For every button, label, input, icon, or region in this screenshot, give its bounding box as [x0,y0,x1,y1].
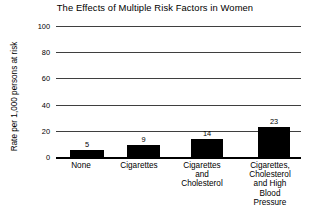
x-axis-label-ccbp-line-2: Cholesterol [233,170,307,179]
y-tick-label-0: 0 [46,154,50,161]
x-axis-label-cigarettes-cholesterol-line-2: and [166,170,238,179]
y-axis-title: Rate per 1,000 persons at risk [10,17,19,177]
bar-cigarettes-cholesterol: 14 [191,139,223,157]
x-axis-label-cigarettes-cholesterol: Cigarettes and Cholesterol [166,161,238,189]
x-axis-label-ccbp-line-5: Pressure [233,198,307,207]
x-axis-label-ccbp-line-3: and High [233,179,307,188]
bar-chart-figure: The Effects of Multiple Risk Factors in … [0,0,310,219]
y-tick-label-80: 80 [42,49,50,56]
gridline-60: 60 [56,78,301,79]
x-axis-label-ccbp-line-1: Cigarettes, [233,161,307,170]
y-tick-label-100: 100 [38,23,50,30]
plot-area: 100 80 60 40 20 0 5 9 14 23 [56,26,301,157]
x-axis-label-ccbp-line-4: Blood [233,189,307,198]
gridline-80: 80 [56,52,301,53]
bar-none: 5 [70,150,104,157]
gridline-40: 40 [56,105,301,106]
y-tick-label-40: 40 [42,101,50,108]
x-axis-label-cigarettes: Cigarettes [104,161,174,170]
x-axis-label-cigarettes-cholesterol-blood-pressure: Cigarettes, Cholesterol and High Blood P… [233,161,307,207]
y-tick-label-60: 60 [42,75,50,82]
x-axis-label-cigarettes-line-1: Cigarettes [104,161,174,170]
x-axis-label-cigarettes-cholesterol-line-1: Cigarettes [166,161,238,170]
bar-cigarettes-cholesterol-blood-pressure: 23 [258,127,290,157]
x-axis-baseline: 0 [56,157,301,159]
bar-cigarettes: 9 [127,145,160,157]
gridline-100: 100 [56,26,301,27]
y-tick-label-20: 20 [42,127,50,134]
bar-value-cigarettes-cholesterol-blood-pressure: 23 [270,118,278,126]
x-axis-label-cigarettes-cholesterol-line-3: Cholesterol [166,179,238,188]
bar-value-cigarettes-cholesterol: 14 [203,130,211,138]
chart-title: The Effects of Multiple Risk Factors in … [0,2,310,13]
bar-value-cigarettes: 9 [141,136,145,144]
bar-value-none: 5 [85,141,89,149]
